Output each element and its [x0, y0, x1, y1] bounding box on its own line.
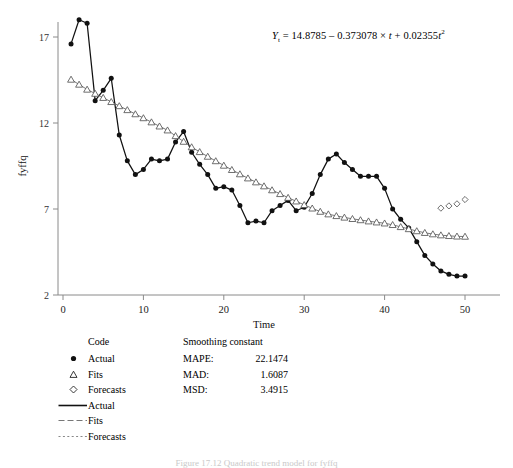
data-point-actual	[69, 41, 74, 46]
stat-value-mad: 1.6087	[228, 369, 288, 380]
data-point-actual	[318, 172, 323, 177]
data-point-fit	[325, 211, 332, 217]
stat-label-msd: MSD:	[183, 384, 228, 395]
data-point-actual	[422, 253, 427, 258]
figure-caption: Figure 17.12 Quadratic trend model for f…	[0, 458, 513, 468]
x-tick-label: 40	[379, 304, 390, 315]
data-point-fit	[236, 171, 243, 177]
data-point-actual	[326, 157, 331, 162]
solid-line-icon	[58, 400, 88, 411]
data-point-fit	[269, 187, 276, 193]
data-point-fit	[212, 158, 219, 164]
legend-item-forecasts-marker: Forecasts	[58, 382, 183, 398]
data-point-actual	[221, 184, 226, 189]
legend-statistics-column: Smoothing constant MAPE: 22.1474 MAD: 1.…	[183, 336, 383, 398]
data-point-actual	[237, 203, 242, 208]
series-layer	[68, 17, 469, 278]
data-point-fit	[309, 205, 316, 211]
data-point-actual	[374, 174, 379, 179]
y-tick-label: 17	[39, 32, 49, 43]
data-point-fit	[317, 208, 324, 214]
data-point-actual	[454, 274, 459, 279]
data-point-fit	[220, 162, 227, 168]
data-point-fit	[293, 198, 300, 204]
data-point-actual	[213, 186, 218, 191]
data-point-actual	[141, 167, 146, 172]
open-triangle-icon	[58, 369, 88, 380]
regression-equation: Yt = 14.8785 – 0.373078 × t + 0.02355t2	[272, 28, 445, 44]
data-point-actual	[446, 272, 451, 277]
data-point-fit	[132, 111, 139, 117]
data-point-fit	[172, 133, 179, 139]
data-point-actual	[334, 151, 339, 156]
y-axis-title: fyffq	[17, 155, 28, 177]
stat-row-mape: MAPE: 22.1474	[183, 351, 383, 367]
data-point-actual	[350, 167, 355, 172]
data-point-fit	[116, 103, 123, 109]
equation-equals: =	[283, 30, 289, 41]
data-point-fit	[68, 76, 75, 82]
data-point-fit	[156, 123, 163, 129]
series-forecasts	[438, 196, 468, 211]
equation-exponent: 2	[441, 28, 445, 36]
data-point-fit	[277, 191, 284, 197]
data-point-actual	[310, 191, 315, 196]
data-point-fit	[164, 127, 171, 133]
legend-item-forecasts-line: Forecasts	[58, 429, 183, 445]
y-tick-label: 2	[44, 290, 49, 301]
data-point-actual	[189, 150, 194, 155]
data-point-fit	[196, 149, 203, 155]
stat-label-mape: MAPE:	[183, 353, 228, 364]
legend-label-forecasts-line: Forecasts	[88, 431, 126, 442]
data-point-actual	[414, 239, 419, 244]
data-point-actual	[262, 220, 267, 225]
data-point-fit	[84, 86, 91, 92]
data-point-actual	[133, 172, 138, 177]
legend-item-fits-marker: Fits	[58, 367, 183, 383]
smoothing-constant-header: Smoothing constant	[183, 336, 383, 347]
data-point-fit	[244, 175, 251, 181]
stat-row-msd: MSD: 3.4915	[183, 382, 383, 398]
data-point-fit	[124, 107, 131, 113]
data-point-actual	[85, 21, 90, 26]
data-point-actual	[101, 88, 106, 93]
dashed-line-icon	[58, 415, 88, 426]
data-point-actual	[181, 129, 186, 134]
data-point-actual	[382, 186, 387, 191]
legend-label-actual-marker: Actual	[88, 353, 115, 364]
legend-item-actual-marker: Actual	[58, 351, 183, 367]
data-point-fit	[204, 153, 211, 159]
data-point-actual	[157, 158, 162, 163]
data-point-actual	[342, 160, 347, 165]
dotted-line-icon	[58, 431, 88, 442]
data-point-actual	[149, 157, 154, 162]
filled-circle-icon	[58, 353, 88, 364]
x-tick-label: 30	[299, 304, 310, 315]
y-tick-label: 12	[39, 118, 49, 129]
equation-t-linear: t	[389, 30, 392, 41]
stat-value-mape: 22.1474	[228, 353, 288, 364]
x-axis-title: Time	[253, 319, 275, 330]
series-fits	[68, 76, 469, 239]
data-point-forecast	[454, 201, 460, 207]
data-point-actual	[390, 207, 395, 212]
axis-labels: 27121701020304050Timefyffq	[17, 32, 470, 331]
legend-label-fits-marker: Fits	[88, 369, 103, 380]
data-point-fit	[261, 183, 268, 189]
data-point-actual	[358, 174, 363, 179]
x-tick-label: 20	[219, 304, 230, 315]
equation-plus: +	[395, 30, 401, 41]
data-point-fit	[92, 90, 99, 96]
data-point-fit	[148, 119, 155, 125]
legend-label-forecasts-marker: Forecasts	[88, 384, 126, 395]
x-tick-label: 10	[138, 304, 149, 315]
data-point-actual	[197, 162, 202, 167]
axis-layer	[53, 22, 500, 300]
data-point-actual	[229, 188, 234, 193]
stat-row-mad: MAD: 1.6087	[183, 367, 383, 383]
data-point-fit	[252, 179, 259, 185]
legend-code-column: Code Actual Fits	[58, 336, 183, 444]
data-point-actual	[109, 76, 114, 81]
stat-label-mad: MAD:	[183, 369, 228, 380]
